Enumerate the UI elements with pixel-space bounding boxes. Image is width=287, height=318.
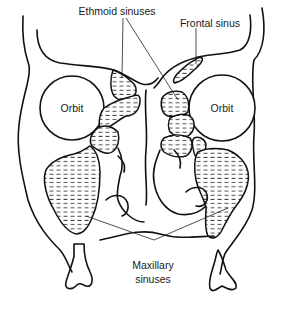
frontal-sinus — [174, 58, 203, 83]
ethmoid-sinus-left-lower — [90, 126, 118, 153]
label-orbit-left: Orbit — [61, 102, 84, 114]
maxillary-sinus-left — [44, 146, 100, 234]
label-maxillary-line2: sinuses — [135, 273, 171, 285]
tooth-right — [209, 250, 236, 291]
ethmoid-sinus-left-mid — [99, 95, 140, 130]
label-frontal-sinus: Frontal sinus — [180, 17, 240, 29]
ethmoid-sinus-right-mid — [169, 114, 195, 137]
label-ethmoid-sinuses: Ethmoid sinuses — [78, 5, 155, 17]
sinus-diagram: Ethmoid sinuses Frontal sinus Orbit Orbi… — [0, 0, 287, 318]
label-maxillary-line1: Maxillary — [132, 259, 174, 271]
label-orbit-right: Orbit — [211, 102, 234, 114]
maxillary-sinus-right — [195, 149, 249, 238]
nasal-septum — [145, 90, 146, 205]
supraorbital-left — [37, 30, 158, 85]
